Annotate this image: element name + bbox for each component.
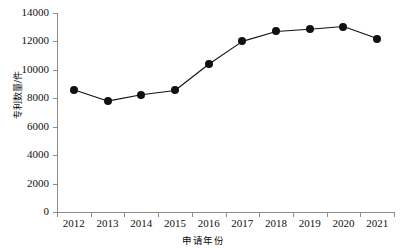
y-tick-label: 0 [0, 206, 49, 217]
data-point [339, 23, 347, 31]
series-line [0, 0, 406, 251]
y-tick [53, 98, 58, 99]
data-point [373, 35, 381, 43]
y-tick [53, 70, 58, 71]
y-tick-label: 4000 [0, 149, 49, 160]
data-point [70, 86, 78, 94]
y-tick-label: 12000 [0, 35, 49, 46]
y-tick-label: 6000 [0, 121, 49, 132]
data-point [104, 97, 112, 105]
y-tick [53, 41, 58, 42]
y-tick [53, 13, 58, 14]
line-chart: 专利数量/件 02000400060008000100001200014000 … [0, 0, 406, 251]
y-tick [53, 155, 58, 156]
x-axis-title: 申请年份 [0, 233, 406, 247]
y-tick-label: 2000 [0, 178, 49, 189]
x-tick [394, 213, 395, 217]
y-tick [53, 127, 58, 128]
y-tick-label: 10000 [0, 64, 49, 75]
data-point [137, 91, 145, 99]
data-point [272, 27, 280, 35]
y-tick-label: 8000 [0, 92, 49, 103]
y-tick-label: 14000 [0, 7, 49, 18]
data-point [238, 37, 246, 45]
data-point [205, 60, 213, 68]
data-point [306, 25, 314, 33]
x-tick-label: 2021 [357, 217, 397, 229]
data-point [171, 86, 179, 94]
y-tick [53, 184, 58, 185]
